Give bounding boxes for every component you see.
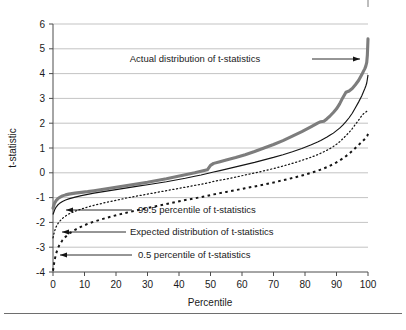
y-tick-label: -4 bbox=[36, 267, 45, 278]
y-tick-label: 2 bbox=[39, 118, 45, 129]
y-tick-label: 6 bbox=[39, 19, 45, 30]
y-tick-label: 5 bbox=[39, 43, 45, 54]
y-tick-label: -3 bbox=[36, 242, 45, 253]
y-tick-label: 4 bbox=[39, 68, 45, 79]
y-tick-label: -2 bbox=[36, 217, 45, 228]
y-tick-label: 3 bbox=[39, 93, 45, 104]
x-tick-label: 30 bbox=[142, 279, 154, 290]
annotation-label: 99.5 percentile of t-statistics bbox=[138, 204, 256, 215]
y-tick-label: -1 bbox=[36, 192, 45, 203]
annotation-label: 0.5 percentile of t-statistics bbox=[138, 249, 251, 260]
x-tick-label: 0 bbox=[50, 279, 56, 290]
x-tick-label: 90 bbox=[331, 279, 343, 290]
x-tick-label: 50 bbox=[205, 279, 217, 290]
chart-figure: -4-3-2-10123456 0102030405060708090100 A… bbox=[0, 0, 406, 330]
x-axis-title: Percentile bbox=[188, 297, 233, 308]
x-tick-label: 70 bbox=[268, 279, 280, 290]
y-tick-label: 1 bbox=[39, 143, 45, 154]
x-tick-label: 60 bbox=[236, 279, 248, 290]
x-tick-label: 20 bbox=[110, 279, 122, 290]
t-statistic-percentile-chart: -4-3-2-10123456 0102030405060708090100 A… bbox=[0, 0, 406, 330]
x-tick-label: 100 bbox=[360, 279, 377, 290]
figure-background bbox=[0, 0, 406, 330]
x-tick-label: 40 bbox=[173, 279, 185, 290]
annotation-label: Expected distribution of t-statistics bbox=[130, 226, 274, 237]
y-tick-label: 0 bbox=[39, 167, 45, 178]
x-tick-label: 80 bbox=[299, 279, 311, 290]
y-axis-title: t-statistic bbox=[7, 128, 18, 167]
x-tick-label: 10 bbox=[79, 279, 91, 290]
annotation-label: Actual distribution of t-statistics bbox=[130, 53, 261, 64]
